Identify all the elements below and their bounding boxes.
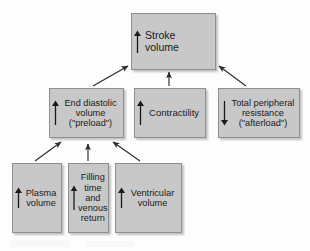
up-arrow-icon xyxy=(69,185,78,211)
node-label: Filling time and venous return xyxy=(78,172,111,223)
down-arrow-icon xyxy=(219,100,230,126)
up-arrow-icon xyxy=(132,30,143,54)
edge-edv-to-stroke-volume xyxy=(93,66,128,86)
edge-plasma-to-edv xyxy=(35,142,61,161)
up-arrow-icon xyxy=(50,100,61,126)
node-contractility[interactable]: Contractility xyxy=(134,88,206,138)
node-plasma-volume[interactable]: Plasma volume xyxy=(12,163,62,233)
scan-artifact xyxy=(86,241,134,247)
node-filling-time-venous-return[interactable]: Filling time and venous return xyxy=(68,163,109,233)
node-label: Total peripheral resistance ("afterload"… xyxy=(230,98,299,129)
node-total-peripheral-resistance[interactable]: Total peripheral resistance ("afterload"… xyxy=(218,88,300,138)
scan-artifact xyxy=(10,240,70,247)
node-label: End diastolic volume ("preload") xyxy=(61,98,123,129)
node-label: Ventricular volume xyxy=(127,188,181,209)
edge-tpr-to-stroke-volume xyxy=(219,66,246,86)
node-label: Contractility xyxy=(146,108,205,119)
node-stroke-volume[interactable]: Stroke volume xyxy=(131,13,216,70)
node-end-diastolic-volume[interactable]: End diastolic volume ("preload") xyxy=(49,88,124,138)
node-label: Plasma volume xyxy=(24,188,61,209)
diagram-canvas: Stroke volume End diastolic volume ("pre… xyxy=(0,0,310,251)
up-arrow-icon xyxy=(116,187,127,209)
node-ventricular-volume[interactable]: Ventricular volume xyxy=(115,163,182,233)
node-label: Stroke volume xyxy=(143,30,215,54)
up-arrow-icon xyxy=(135,100,146,126)
edge-ventricular-to-edv xyxy=(113,142,140,161)
up-arrow-icon xyxy=(13,187,24,209)
